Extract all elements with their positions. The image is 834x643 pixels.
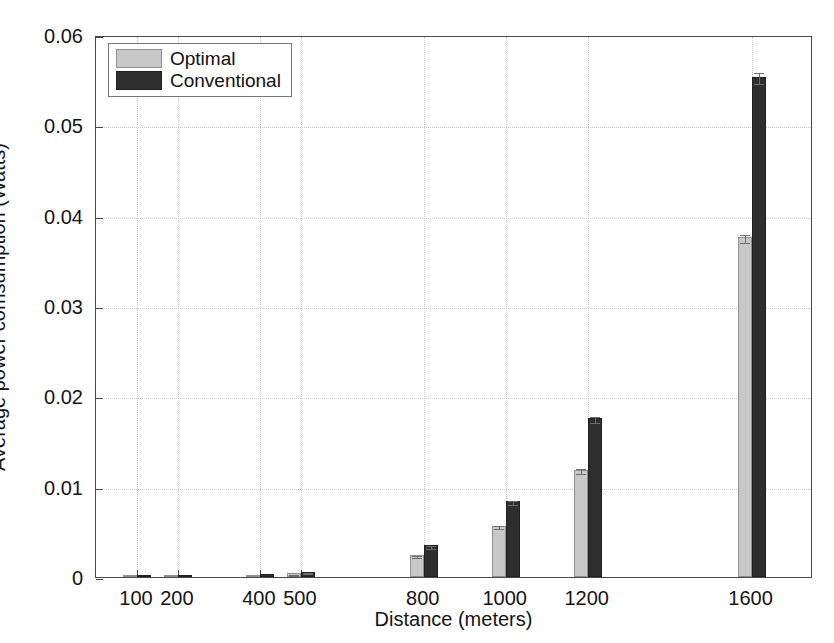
bar-conventional-1000: [506, 501, 520, 577]
y-tick-mark: [96, 218, 103, 219]
bar-conventional-800: [424, 545, 438, 577]
y-tick-mark: [96, 308, 103, 309]
y-tick-mark: [96, 489, 103, 490]
gridline-vertical: [260, 37, 261, 577]
gridline-horizontal: [96, 127, 811, 128]
x-tick-label: 400: [242, 587, 275, 610]
y-tick-mark: [96, 398, 103, 399]
legend-label-optimal: Optimal: [170, 49, 235, 68]
legend-item-conventional: Conventional: [116, 71, 281, 90]
error-bar-cap-lower: [740, 243, 750, 244]
bar-conventional-1200: [588, 418, 602, 577]
bar-conventional-100: [137, 575, 151, 577]
gridline-horizontal: [96, 489, 811, 490]
legend-label-conventional: Conventional: [170, 71, 281, 90]
gridline-horizontal: [96, 308, 811, 309]
legend-swatch-conventional: [116, 71, 162, 90]
error-bar-cap-lower: [576, 474, 586, 475]
y-tick-label: 0.01: [0, 476, 83, 499]
bar-conventional-1600: [752, 77, 766, 577]
y-tick-label: 0.04: [0, 205, 83, 228]
error-bar-cap-upper: [508, 501, 518, 502]
y-tick-mark: [96, 579, 103, 580]
error-bar-cap-lower: [494, 529, 504, 530]
bar-conventional-200: [178, 575, 192, 577]
gridline-vertical: [137, 37, 138, 577]
gridline-vertical: [301, 37, 302, 577]
gridline-horizontal: [96, 398, 811, 399]
error-bar-cap-upper: [426, 546, 436, 547]
bar-optimal-400: [246, 575, 260, 577]
y-tick-label: 0.03: [0, 296, 83, 319]
error-bar-stem: [745, 235, 746, 243]
bar-optimal-1200: [574, 470, 588, 577]
error-bar-cap-lower: [303, 574, 313, 575]
y-tick-label: 0.05: [0, 115, 83, 138]
error-bar-cap-lower: [754, 84, 764, 85]
error-bar-cap-lower: [426, 549, 436, 550]
error-bar-cap-upper: [754, 73, 764, 74]
x-axis-label: Distance (meters): [95, 608, 812, 631]
gridline-vertical: [178, 37, 179, 577]
gridline-vertical: [506, 37, 507, 577]
legend-item-optimal: Optimal: [116, 49, 281, 68]
error-bar-stem: [759, 73, 760, 84]
error-bar-cap-upper: [740, 235, 750, 236]
x-tick-label: 200: [160, 587, 193, 610]
gridline-horizontal: [96, 218, 811, 219]
error-bar-cap-lower: [289, 576, 299, 577]
legend-swatch-optimal: [116, 49, 162, 68]
bar-optimal-100: [123, 575, 137, 577]
y-tick-label: 0.02: [0, 386, 83, 409]
x-tick-label: 100: [119, 587, 152, 610]
y-tick-mark: [96, 127, 103, 128]
error-bar-cap-lower: [590, 423, 600, 424]
plot-area: Optimal Conventional: [95, 36, 812, 578]
error-bar-cap-upper: [590, 417, 600, 418]
x-tick-label: 500: [283, 587, 316, 610]
x-tick-label: 800: [406, 587, 439, 610]
bar-optimal-1600: [738, 237, 752, 577]
error-bar-cap-upper: [494, 526, 504, 527]
x-tick-label: 1200: [564, 587, 609, 610]
x-tick-label: 1600: [728, 587, 773, 610]
bar-optimal-200: [164, 575, 178, 577]
error-bar-cap-lower: [412, 558, 422, 559]
chart-figure: Average power comsumption (Watts) Distan…: [0, 0, 834, 643]
x-tick-label: 1000: [482, 587, 527, 610]
chart-legend: Optimal Conventional: [108, 43, 292, 97]
error-bar-cap-lower: [508, 505, 518, 506]
bar-optimal-1000: [492, 526, 506, 577]
gridline-vertical: [424, 37, 425, 577]
y-tick-label: 0.06: [0, 25, 83, 48]
y-tick-mark: [96, 37, 103, 38]
y-tick-label: 0: [0, 567, 83, 590]
bar-conventional-400: [260, 574, 274, 577]
error-bar-cap-upper: [576, 469, 586, 470]
error-bar-cap-upper: [412, 556, 422, 557]
